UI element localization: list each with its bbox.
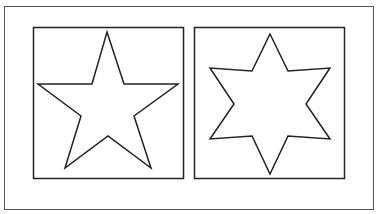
five-point-star-icon	[38, 32, 178, 168]
panel-six-point-star	[195, 28, 345, 179]
diagram-canvas	[0, 0, 378, 214]
six-point-star-icon	[210, 34, 330, 174]
right-box	[195, 28, 345, 179]
left-box	[34, 28, 184, 179]
panel-five-point-star	[34, 28, 184, 179]
